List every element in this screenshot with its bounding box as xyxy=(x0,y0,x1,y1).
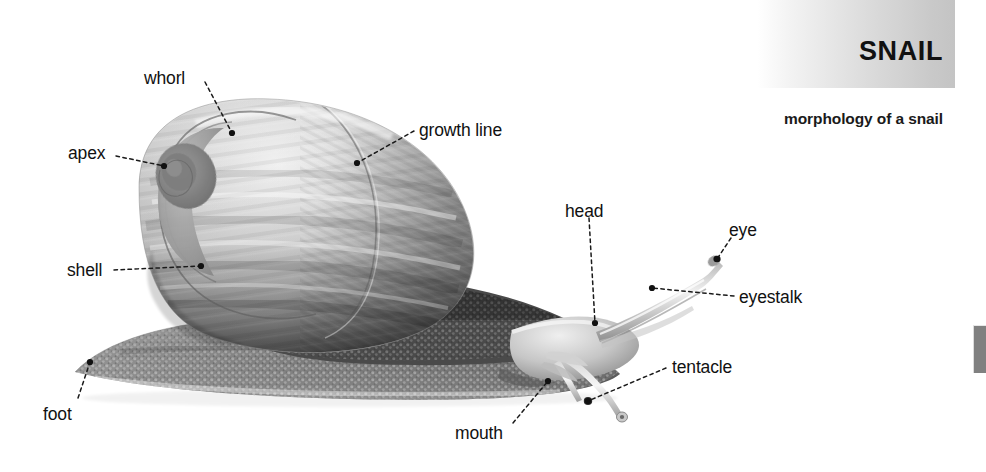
label-eyestalk: eyestalk xyxy=(739,287,802,307)
leader-line-whorl xyxy=(205,82,232,133)
leader-line-eye xyxy=(717,238,731,259)
leader-line-mouth xyxy=(513,381,548,423)
label-apex: apex xyxy=(68,143,105,163)
side-tab-marker[interactable] xyxy=(973,325,986,373)
leader-line-head xyxy=(589,218,595,323)
leader-line-shell xyxy=(114,266,201,270)
leader-line-eyestalk xyxy=(652,288,734,296)
leader-dot-eye xyxy=(714,256,720,262)
leader-line-apex xyxy=(116,156,164,166)
leader-dot-foot xyxy=(87,359,93,365)
page-title: SNAIL xyxy=(757,34,943,68)
leader-line-foot xyxy=(78,362,90,398)
leader-dot-tentacle xyxy=(585,398,591,404)
label-growth-line: growth line xyxy=(419,120,502,140)
leader-line-tentacle xyxy=(588,368,666,401)
leader-dot-mouth xyxy=(545,378,551,384)
snail-morphology-page: SNAIL morphology of a snail whorlapexgro… xyxy=(0,0,986,472)
leader-dot-apex xyxy=(161,163,167,169)
leader-dot-eyestalk xyxy=(649,285,655,291)
page-subtitle: morphology of a snail xyxy=(700,108,943,130)
label-foot: foot xyxy=(43,404,72,424)
leader-dot-shell xyxy=(198,263,204,269)
leader-dot-growth-line xyxy=(354,160,360,166)
leader-dot-head xyxy=(592,320,598,326)
leader-dot-whorl xyxy=(229,130,235,136)
leader-line-growth-line xyxy=(357,131,414,163)
label-mouth: mouth xyxy=(455,423,503,443)
label-whorl: whorl xyxy=(144,68,185,88)
label-shell: shell xyxy=(67,260,102,280)
label-head: head xyxy=(565,201,603,221)
label-tentacle: tentacle xyxy=(672,357,732,377)
label-eye: eye xyxy=(729,220,757,240)
